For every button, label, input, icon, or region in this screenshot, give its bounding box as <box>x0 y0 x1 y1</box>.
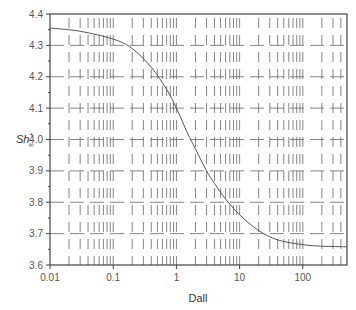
x-axis-label: Dall <box>189 292 208 304</box>
y-tick-label: 3.8 <box>29 197 43 208</box>
y-tick-label: 3.6 <box>29 260 43 271</box>
x-tick-label: 0.1 <box>106 272 120 283</box>
y-tick-label: 3.7 <box>29 228 43 239</box>
y-axis-label: Sh*∞ <box>16 131 34 148</box>
x-tick-label: 0.01 <box>40 272 60 283</box>
y-tick-label: 4.1 <box>29 103 43 114</box>
grid-lines <box>50 14 347 265</box>
x-tick-label: 100 <box>294 272 311 283</box>
x-tick-label: 10 <box>234 272 246 283</box>
x-tick-label: 1 <box>174 272 180 283</box>
y-tick-label: 4.3 <box>29 40 43 51</box>
y-tick-label: 4.2 <box>29 71 43 82</box>
x-axis: 0.010.1110100 <box>40 265 311 283</box>
y-tick-label: 3.9 <box>29 165 43 176</box>
chart: 3.63.73.83.94.04.14.24.34.4 0.010.111010… <box>0 0 356 310</box>
y-tick-label: 4.4 <box>29 9 43 20</box>
